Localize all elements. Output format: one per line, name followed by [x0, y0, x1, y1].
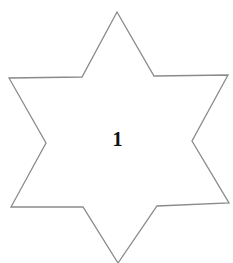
- star-number-label: 1: [0, 128, 233, 150]
